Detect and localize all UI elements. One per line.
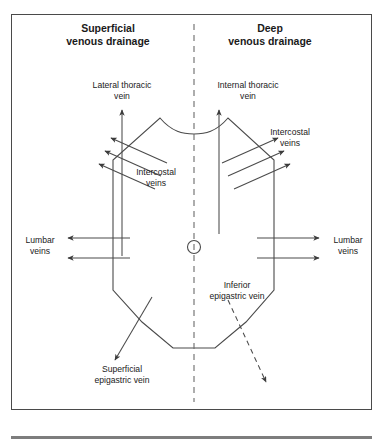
heading-deep-line1: Deep — [257, 22, 283, 34]
label-lateral-thoracic-vein-line1: Lateral thoracic — [93, 80, 152, 90]
superficial-epigastric-vein-arrow — [115, 297, 152, 360]
lumbar-veins-left-arrows — [68, 238, 130, 258]
venous-drainage-figure: Superficial venous drainage Deep venous … — [0, 0, 384, 446]
diagram-canvas: Superficial venous drainage Deep venous … — [0, 0, 384, 446]
heading-deep-line2: venous drainage — [228, 35, 312, 47]
heading-superficial-line2: venous drainage — [66, 35, 150, 47]
label-lumbar-veins-right-line1: Lumbar — [333, 235, 362, 245]
label-superficial-epigastric-vein-line2: epigastric vein — [95, 375, 150, 385]
label-lumbar-veins-right-line2: veins — [338, 246, 358, 256]
label-lumbar-veins-left-line2: veins — [30, 246, 50, 256]
label-intercostal-veins-left-line2: veins — [146, 178, 166, 188]
label-internal-thoracic-vein-line1: Internal thoracic — [217, 80, 279, 90]
heading-superficial: Superficial venous drainage — [66, 22, 150, 47]
heading-deep: Deep venous drainage — [228, 22, 312, 47]
label-inferior-epigastric-vein-line2: epigastric vein — [210, 291, 265, 301]
heading-superficial-line1: Superficial — [81, 22, 135, 34]
label-lateral-thoracic-vein-line2: vein — [114, 91, 130, 101]
label-lumbar-veins-left-line1: Lumbar — [25, 235, 54, 245]
label-lumbar-veins-right: Lumbar veins — [333, 235, 362, 256]
label-lateral-thoracic-vein: Lateral thoracic vein — [93, 80, 152, 101]
label-intercostal-veins-right-line2: veins — [280, 138, 300, 148]
label-inferior-epigastric-vein-line1: Inferior — [224, 280, 251, 290]
label-internal-thoracic-vein-line2: vein — [240, 91, 256, 101]
label-inferior-epigastric-vein: Inferior epigastric vein — [210, 280, 265, 301]
label-superficial-epigastric-vein-line1: Superficial — [102, 364, 142, 374]
label-internal-thoracic-vein: Internal thoracic vein — [217, 80, 279, 101]
label-intercostal-veins-right: Intercostal veins — [270, 127, 310, 148]
label-intercostal-veins-left-line1: Intercostal — [136, 167, 176, 177]
label-intercostal-veins-left: Intercostal veins — [136, 167, 176, 188]
label-lumbar-veins-left: Lumbar veins — [25, 235, 54, 256]
label-intercostal-veins-right-line1: Intercostal — [270, 127, 310, 137]
lumbar-veins-right-arrows — [257, 238, 319, 258]
label-superficial-epigastric-vein: Superficial epigastric vein — [95, 364, 150, 385]
inferior-epigastric-vein-arrow — [228, 300, 266, 382]
